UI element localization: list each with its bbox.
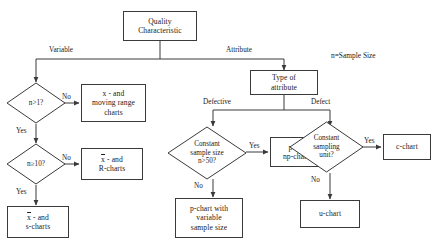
node-type-of-attribute: Type of attribute: [250, 70, 318, 95]
edge-label-variable: Variable: [49, 47, 73, 54]
node-x-moving-range-line3: charts: [104, 108, 123, 117]
xbar-glyph: x: [27, 213, 31, 222]
node-p-chart-variable-sample-size: p-chart with variable sample size: [175, 198, 243, 238]
node-x-moving-range-line2: moving range: [92, 98, 135, 107]
node-xbar-s-charts: x - and s-charts: [7, 206, 69, 238]
const-unit-line3: unit?: [319, 151, 333, 159]
node-type-of-attribute-line2: attribute: [271, 83, 297, 92]
node-xbar-r-line2: R-charts: [99, 164, 126, 173]
edge-label-defective: Defective: [203, 99, 231, 106]
edge-label-defect: Defect: [311, 99, 330, 106]
node-u-chart-label: u-chart: [319, 209, 341, 218]
node-constant-sample-size: Constant sample size n>50?: [167, 126, 247, 180]
node-p-variable-line3: sample size: [191, 223, 227, 232]
node-p-variable-line2: variable: [196, 213, 221, 222]
edge-label-yes-3: Yes: [249, 143, 259, 150]
node-quality-characteristic: Quality Characteristic: [123, 11, 197, 41]
node-n-at-least-10: n≥10?: [6, 143, 66, 185]
node-xbar-s-line2: s-charts: [26, 222, 50, 231]
edge-label-no-4: No: [311, 177, 320, 184]
node-type-of-attribute-line1: Type of: [272, 73, 296, 82]
node-x-moving-range-charts: x - and moving range charts: [81, 84, 146, 122]
flowchart-canvas: Quality Characteristic n=Sample Size Var…: [0, 0, 440, 244]
const-unit-line2: sampling: [313, 143, 339, 151]
node-n-greater-than-1: n>1?: [6, 82, 66, 124]
edge-label-yes-2: Yes: [16, 189, 26, 196]
node-n-greater-than-1-label: n>1?: [6, 99, 66, 108]
edge-label-attribute: Attribute: [226, 47, 252, 54]
node-p-variable-line1: p-chart with: [190, 204, 228, 213]
const-unit-line1: Constant: [314, 134, 340, 142]
xbar-glyph: x: [101, 155, 105, 164]
const-sample-line3: n>50?: [198, 157, 216, 165]
node-c-chart: c-chart: [383, 134, 431, 160]
node-constant-sampling-unit-label: Constant sampling unit?: [289, 134, 364, 160]
node-constant-sampling-unit: Constant sampling unit?: [289, 121, 364, 173]
node-u-chart: u-chart: [300, 200, 360, 228]
edge-label-yes-4: Yes: [364, 138, 374, 145]
node-quality-characteristic-line1: Quality: [148, 17, 171, 26]
node-xbar-r-line1: x - and: [101, 155, 123, 164]
node-quality-characteristic-line2: Characteristic: [138, 26, 182, 35]
edge-label-no-3: No: [194, 183, 203, 190]
const-sample-line2: sample size: [190, 149, 223, 157]
edge-label-yes-1: Yes: [16, 128, 26, 135]
sample-size-note: n=Sample Size: [331, 52, 376, 59]
node-constant-sample-size-label: Constant sample size n>50?: [167, 140, 247, 166]
node-n-at-least-10-label: n≥10?: [6, 160, 66, 169]
node-xbar-r-charts: x - and R-charts: [81, 148, 143, 180]
node-x-moving-range-line1: x - and: [103, 89, 125, 98]
const-sample-line1: Constant: [194, 140, 220, 148]
node-c-chart-label: c-chart: [396, 142, 418, 151]
node-xbar-s-line1: x - and: [27, 213, 49, 222]
